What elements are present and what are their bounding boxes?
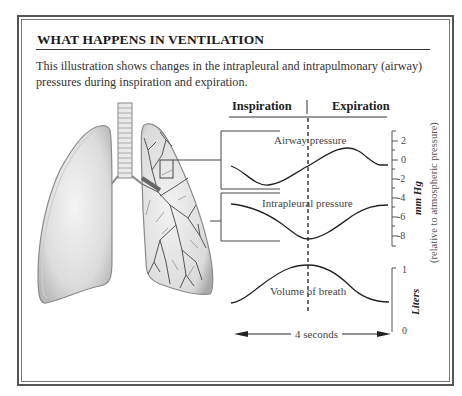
- intrapleural-pressure-curve: [231, 204, 388, 239]
- duration-label: 4 seconds: [295, 328, 338, 340]
- ventilation-diagram: Inspiration Expiration Airway pressure I…: [0, 0, 462, 396]
- arrow-left-icon: [234, 331, 248, 337]
- pressure-tick-labels: 2 0 -2 -4 -6 -8: [397, 135, 406, 241]
- trachea-icon: [110, 103, 142, 186]
- pressure-axis: [392, 131, 398, 246]
- volume-tick-0: 0: [402, 325, 407, 336]
- tick-neg6: -6: [397, 211, 405, 222]
- right-lung-icon: [141, 124, 213, 295]
- phase-expiration-label: Expiration: [332, 99, 390, 113]
- left-lung-icon: [38, 126, 112, 303]
- tick-2: 2: [401, 135, 406, 146]
- tick-neg4: -4: [397, 192, 405, 203]
- pressure-unit-label: mm Hg: [411, 181, 423, 215]
- arrow-right-icon: [377, 331, 391, 337]
- tick-neg2: -2: [397, 173, 405, 184]
- volume-axis: [392, 268, 396, 332]
- volume-curve: [231, 265, 389, 303]
- volume-label: Volume of breath: [270, 285, 347, 297]
- pressure-note-label: (relative to atmospheric pressure): [428, 122, 440, 263]
- volume-tick-1: 1: [402, 264, 407, 275]
- tick-0: 0: [401, 154, 406, 165]
- phase-inspiration-label: Inspiration: [232, 99, 292, 113]
- airway-pressure-label: Airway pressure: [274, 134, 347, 146]
- intrapleural-pressure-label: Intrapleural pressure: [262, 197, 353, 209]
- tick-neg8: -8: [397, 230, 405, 241]
- airway-pressure-curve: [231, 148, 388, 185]
- volume-unit-label: Liters: [409, 289, 421, 316]
